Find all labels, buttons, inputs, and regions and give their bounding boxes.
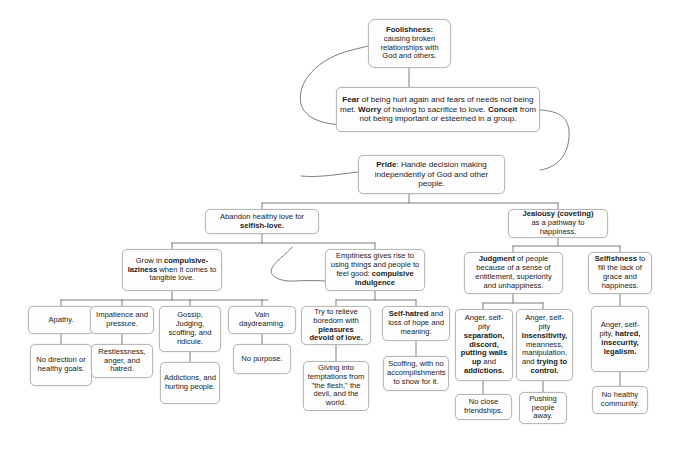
node-self-hatred[interactable]: Self-hatred and loss of hope and meaning… <box>382 306 450 341</box>
node-judgment[interactable]: Judgment of people because of a sense of… <box>464 252 563 294</box>
node-vain-label: Vain daydreaming. <box>232 311 292 329</box>
node-laziness[interactable]: Grow in compulsive-laziness when it come… <box>122 249 222 291</box>
node-addictions-label: Addictions, and hurting people. <box>164 374 216 392</box>
node-relieve-boredom-label: Try to relieve boredom with pleasures de… <box>305 308 367 344</box>
node-anger-hatred[interactable]: Anger, self-pity, hatred, insecurity, le… <box>591 306 649 372</box>
node-jealousy-label: Jealousy (coveting)as a pathway to happi… <box>512 210 604 237</box>
node-gossip[interactable]: Gossip, Judging, scoffing, and ridicule. <box>159 306 221 352</box>
node-no-purpose[interactable]: No purpose. <box>233 344 291 374</box>
node-judgment-label: Judgment of people because of a sense of… <box>468 255 559 291</box>
node-abandon-love-label: Abandon healthy love for selfish-love. <box>209 213 315 231</box>
node-scoffing[interactable]: Scoffing, with no accomplishments to sho… <box>383 356 449 391</box>
node-no-direction-label: No direction or healthy goals. <box>34 356 88 374</box>
node-fear-label: Fear of being hurt again and fears of ne… <box>340 95 536 124</box>
node-no-healthy-community[interactable]: No healthy community. <box>592 386 648 414</box>
node-restlessness-label: Restlessness, anger, and hatred. <box>95 348 149 375</box>
node-foolishness[interactable]: Foolishness:causing brokenrelationships … <box>368 19 451 68</box>
node-relieve-boredom[interactable]: Try to relieve boredom with pleasures de… <box>301 306 371 345</box>
node-anger-separation[interactable]: Anger, self-pity separation, discord, pu… <box>455 309 513 381</box>
node-gossip-label: Gossip, Judging, scoffing, and ridicule. <box>163 311 217 347</box>
node-anger-hatred-label: Anger, self-pity, hatred, insecurity, le… <box>595 321 645 357</box>
node-no-close-friendships-label: No close friendships. <box>459 398 508 416</box>
node-impatience[interactable]: Impatience and pressure. <box>90 306 154 334</box>
node-no-direction[interactable]: No direction or healthy goals. <box>30 344 92 386</box>
node-anger-insensitivity-label: Anger, self-pity Insensitivity, meanness… <box>520 314 569 377</box>
node-pushing-people-away[interactable]: Pushing people away. <box>519 392 567 424</box>
node-anger-separation-label: Anger, self-pity separation, discord, pu… <box>459 314 509 377</box>
node-no-close-friendships[interactable]: No close friendships. <box>455 394 512 420</box>
node-selfishness[interactable]: Selfishness to fill the lack of grace an… <box>588 252 652 294</box>
node-fear[interactable]: Fear of being hurt again and fears of ne… <box>336 87 540 132</box>
node-addictions[interactable]: Addictions, and hurting people. <box>160 362 220 404</box>
node-foolishness-label: Foolishness:causing brokenrelationships … <box>372 26 447 62</box>
node-restlessness[interactable]: Restlessness, anger, and hatred. <box>91 344 153 378</box>
node-jealousy[interactable]: Jealousy (coveting)as a pathway to happi… <box>508 209 608 238</box>
diagram-canvas: Foolishness:causing brokenrelationships … <box>0 0 686 451</box>
node-vain[interactable]: Vain daydreaming. <box>228 306 296 334</box>
node-anger-insensitivity[interactable]: Anger, self-pity Insensitivity, meanness… <box>516 309 573 381</box>
node-abandon-love[interactable]: Abandon healthy love for selfish-love. <box>205 209 319 234</box>
node-selfishness-label: Selfishness to fill the lack of grace an… <box>592 255 648 291</box>
node-no-healthy-community-label: No healthy community. <box>596 391 644 409</box>
node-emptiness-label: Emptiness gives rise to using things and… <box>329 252 421 288</box>
node-scoffing-label: Scoffing, with no accomplishments to sho… <box>387 360 445 387</box>
node-emptiness[interactable]: Emptiness gives rise to using things and… <box>325 249 425 291</box>
node-no-purpose-label: No purpose. <box>237 355 287 364</box>
node-pride[interactable]: Pride: Handle decision making independen… <box>358 155 505 194</box>
node-pushing-people-away-label: Pushing people away. <box>523 395 563 422</box>
node-self-hatred-label: Self-hatred and loss of hope and meaning… <box>386 310 446 337</box>
node-apathy[interactable]: Apathy. <box>28 306 94 334</box>
node-temptations-label: Giving into temptations from "the flesh,… <box>307 364 365 409</box>
node-temptations[interactable]: Giving into temptations from "the flesh,… <box>303 361 369 411</box>
node-impatience-label: Impatience and pressure. <box>94 311 150 329</box>
node-pride-label: Pride: Handle decision making independen… <box>362 160 501 189</box>
node-apathy-label: Apathy. <box>32 316 90 325</box>
node-laziness-label: Grow in compulsive-laziness when it come… <box>126 257 218 284</box>
